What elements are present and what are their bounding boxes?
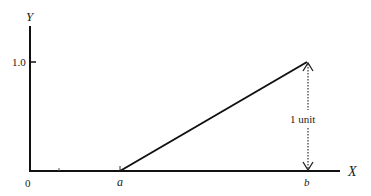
ramp-line: [120, 62, 307, 171]
y-tick-label: 1.0: [12, 56, 26, 68]
point-a-label: a: [117, 175, 123, 189]
y-axis-label: Y: [26, 9, 35, 24]
arrow-down-icon: [303, 162, 313, 170]
linear-ramp-diagram: Y 1.0 0 a b X 1 unit: [0, 0, 371, 196]
unit-annotation: 1 unit: [290, 113, 315, 125]
x-axis-label: X: [347, 164, 357, 179]
point-b-label: b: [304, 176, 310, 188]
origin-label: 0: [25, 177, 31, 189]
